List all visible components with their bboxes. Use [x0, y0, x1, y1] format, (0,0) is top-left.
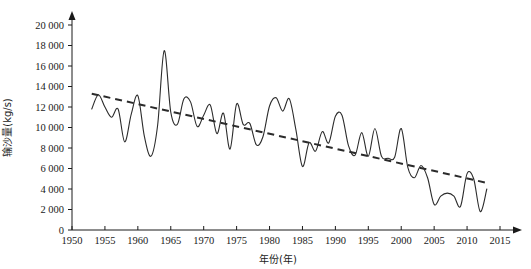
sediment-transport-line-chart: 02 0004 0006 0008 00010 00012 00014 0001…: [0, 0, 531, 269]
x-tick-label: 2005: [424, 235, 445, 246]
axes: [69, 11, 523, 234]
y-tick-label: 14 000: [35, 81, 64, 92]
axis-tick-marks: [68, 25, 500, 230]
x-tick-label: 1965: [160, 235, 181, 246]
y-tick-label: 16 000: [35, 61, 64, 72]
y-tick-label: 20 000: [35, 20, 64, 31]
y-tick-label: 0: [59, 225, 64, 236]
x-tick-label: 1975: [226, 235, 247, 246]
y-tick-label: 8 000: [40, 143, 64, 154]
x-tick-label: 1960: [127, 235, 148, 246]
x-axis-arrow-icon: [513, 227, 522, 234]
y-axis-title: 输沙量(kg/s): [1, 98, 13, 157]
x-tick-label: 1985: [292, 235, 313, 246]
x-axis-title: 年份(年): [259, 253, 297, 265]
x-tick-label: 1955: [94, 235, 115, 246]
y-tick-label: 4 000: [40, 184, 64, 195]
sediment-series-line: [92, 51, 487, 212]
x-tick-label: 2010: [457, 235, 478, 246]
x-axis-tick-labels: 1950195519601965197019751980198519901995…: [62, 235, 511, 246]
trend-dashed-line: [92, 94, 487, 183]
x-tick-label: 2000: [391, 235, 412, 246]
y-tick-label: 10 000: [35, 122, 64, 133]
x-tick-label: 1970: [193, 235, 214, 246]
y-tick-label: 12 000: [35, 102, 64, 113]
y-axis-arrow-icon: [69, 11, 76, 20]
x-tick-label: 1950: [62, 235, 83, 246]
x-tick-label: 1990: [325, 235, 346, 246]
x-tick-label: 1995: [358, 235, 379, 246]
y-tick-label: 2 000: [40, 204, 64, 215]
x-tick-label: 2015: [490, 235, 511, 246]
y-tick-label: 18 000: [35, 40, 64, 51]
x-tick-label: 1980: [259, 235, 280, 246]
y-tick-label: 6 000: [40, 163, 64, 174]
chart-container: 02 0004 0006 0008 00010 00012 00014 0001…: [0, 0, 531, 269]
y-axis-tick-labels: 02 0004 0006 0008 00010 00012 00014 0001…: [35, 20, 64, 236]
